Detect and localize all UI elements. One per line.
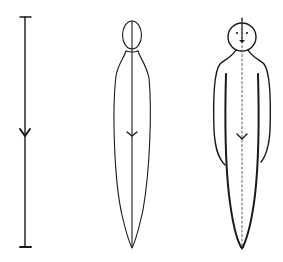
stage-2-spindle-figure (114, 21, 150, 248)
torso-right-contour (243, 74, 259, 247)
left-eye-icon (236, 32, 238, 34)
stage-3-complete-figure (214, 18, 271, 249)
mouth-icon (239, 40, 245, 43)
torso-left-contour (225, 74, 241, 247)
feet-point (241, 247, 243, 249)
figure-diagram (0, 0, 283, 262)
stage-1-plumb-line (20, 17, 31, 247)
right-eye-icon (246, 32, 248, 34)
